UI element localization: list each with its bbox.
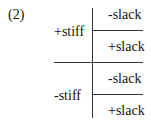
- leaf-label: +slack: [108, 40, 145, 54]
- branch-label-plus-stiff: +stiff: [54, 25, 84, 39]
- branch-label-minus-stiff: -stiff: [54, 89, 81, 103]
- vertical-divider: [92, 8, 93, 118]
- leaf-label: +slack: [108, 104, 145, 118]
- diagram-label: (2): [8, 8, 24, 22]
- leaf-label: -slack: [108, 8, 141, 22]
- horizontal-divider-lower: [92, 94, 143, 95]
- horizontal-divider-upper: [92, 30, 143, 31]
- leaf-label: -slack: [108, 72, 141, 86]
- horizontal-divider-main: [54, 62, 143, 63]
